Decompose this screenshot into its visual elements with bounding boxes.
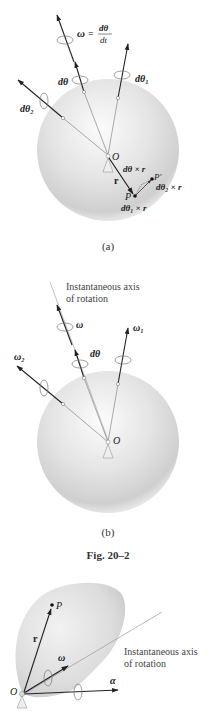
figure-canvas: ω = dθ dt dθ dθ₁ dθ₂ O r P P′ dθ × r dθ₂… [0,0,220,724]
omega-def-denominator: dt [100,35,108,45]
origin-label-b: O [113,435,120,446]
axis-note-c-line2: of rotation [124,658,166,669]
r-label-a: r [114,175,119,186]
p-label-c: P [55,600,62,611]
omega2-label: ω₂ [14,351,25,362]
axis-note-b-line2: of rotation [66,293,108,304]
dtheta-vector-arrow-b [75,350,84,378]
caption-b: (b) [102,526,115,539]
point-p-c [50,603,54,607]
pivot-support-icon [17,696,27,708]
omega-label-b: ω [76,319,83,330]
alpha-label: α [110,675,116,686]
dtheta-label-b: dθ [90,348,101,359]
dtheta1-cross-r-label: dθ₁ × r [121,203,147,213]
figure-b: Instantaneous axis of rotation ω ω₁ ω₂ d… [14,281,179,561]
omega-vector-arrow [57,15,74,62]
point-p-a [133,194,137,198]
omega-def-numerator: dθ [99,23,109,33]
origin-label-c: O [10,686,17,697]
dtheta-label: dθ [58,76,69,87]
figure-caption: Fig. 20–2 [87,549,130,561]
equals-sign: = [88,28,94,39]
axis-note-b-line1: Instantaneous axis [66,281,140,292]
figure-a: ω = dθ dt dθ dθ₁ dθ₂ O r P P′ dθ × r dθ₂… [18,15,182,253]
caption-a: (a) [102,240,115,253]
axis-note-c-line1: Instantaneous axis [124,646,198,657]
origin-label-a: O [112,151,119,162]
rotation-sense-icon [40,93,48,109]
omega-vector-arrow-b [57,305,72,345]
dtheta1-label: dθ₁ [135,73,149,84]
p-prime-label: P′ [153,172,162,182]
r-label-c: r [33,633,38,644]
dtheta2-cross-r-label: dθ₂ × r [156,182,182,192]
omega1-label: ω₁ [133,322,144,333]
dtheta-cross-r-label: dθ × r [123,164,146,174]
figure-c: P r ω α O Instantaneous axis of rotation [10,583,198,708]
omega-label: ω [77,27,85,39]
p-label-a: P [124,191,131,202]
rigid-body-blob [16,583,126,698]
dtheta2-label: dθ₂ [20,103,34,114]
omega-label-c: ω [58,652,65,663]
sphere-a [37,79,179,221]
